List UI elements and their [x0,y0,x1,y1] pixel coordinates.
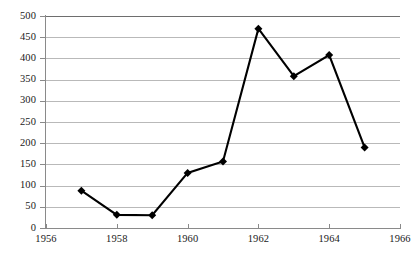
line-chart: 050100150200250300350400450500 195619581… [0,0,420,257]
series-markers [77,25,368,220]
data-series-layer [0,0,420,257]
series-line [81,29,364,216]
data-point-marker [361,143,369,151]
data-point-marker [219,157,227,165]
